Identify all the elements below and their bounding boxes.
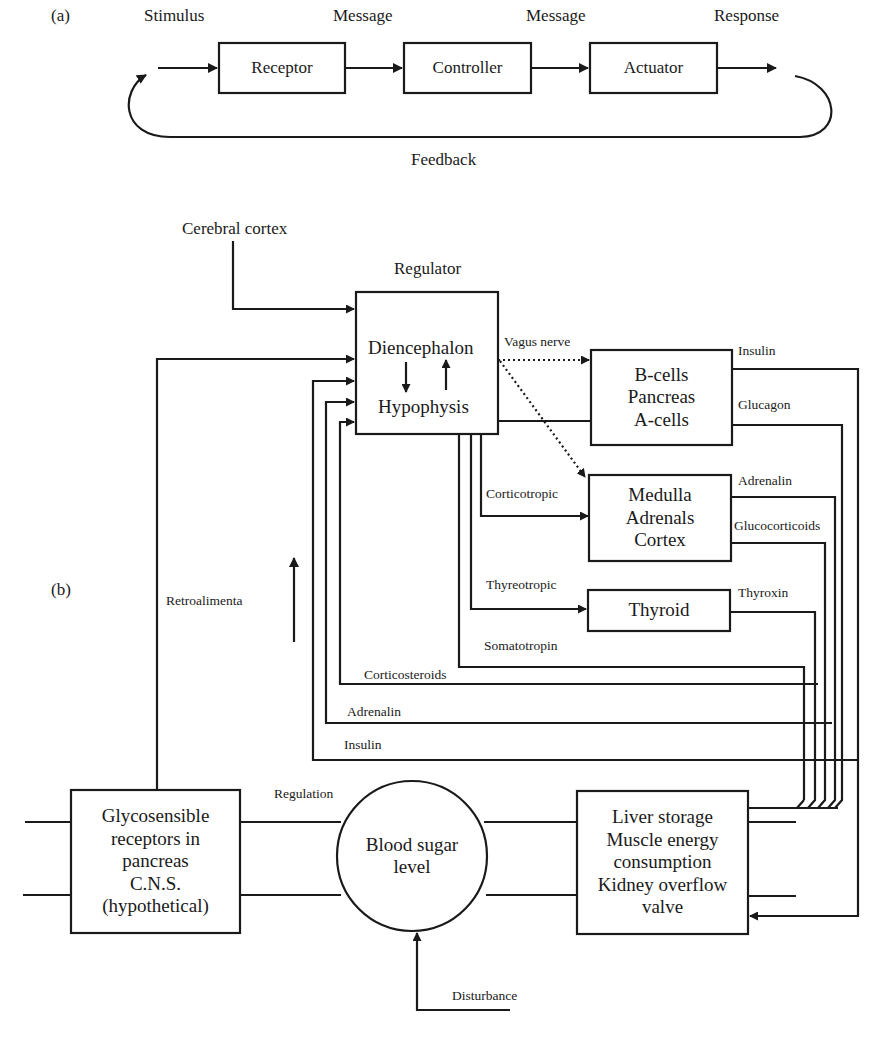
panel-a-label: (a) [51, 6, 70, 26]
feedback-label: Feedback [411, 150, 476, 170]
insulin-output-line [732, 369, 858, 916]
glucocorticoids-output-label: Glucocorticoids [734, 518, 820, 534]
thyroid-text: Thyroid [588, 590, 730, 631]
somatotropin-bus-end [797, 800, 804, 808]
thyroxin-output-line [730, 612, 815, 808]
hypophysis-label: Hypophysis [378, 396, 469, 418]
cerebral-cortex-arrow [233, 241, 354, 309]
disturbance-label: Disturbance [452, 988, 517, 1004]
adrenalin-feedback-label: Adrenalin [347, 704, 401, 720]
vagus-adrenals-arrow [500, 361, 585, 477]
blood-sugar-text: Blood sugar level [337, 781, 487, 931]
glycosensible-text: Glycosensible receptors in pancreas C.N.… [71, 790, 240, 933]
glucocorticoids-output-line [731, 543, 825, 808]
adrenals-text: Medulla Adrenals Cortex [589, 475, 731, 561]
panel-b-label: (b) [51, 580, 71, 600]
cerebral-cortex-label: Cerebral cortex [182, 219, 287, 239]
message-label-1: Message [333, 6, 392, 26]
diencephalon-label: Diencephalon [368, 337, 474, 359]
receptor-text: Receptor [219, 43, 345, 93]
thyroxin-output-label: Thyroxin [738, 585, 788, 601]
stimulus-label: Stimulus [144, 6, 204, 26]
retroalimenta-line [157, 359, 354, 790]
pancreas-text: B-cells Pancreas A-cells [591, 350, 732, 445]
regulator-title: Regulator [394, 259, 461, 279]
thyreotropic-label: Thyreotropic [486, 577, 556, 593]
glucagon-output-label: Glucagon [738, 397, 790, 413]
response-label: Response [714, 6, 779, 26]
effectors-text: Liver storage Muscle energy consumption … [577, 791, 748, 934]
somatotropin-label: Somatotropin [484, 638, 558, 654]
message-label-2: Message [526, 6, 585, 26]
vagus-nerve-label: Vagus nerve [504, 334, 570, 350]
corticosteroids-label: Corticosteroids [364, 667, 447, 683]
retroalimenta-label: Retroalimenta [166, 593, 242, 609]
regulation-label: Regulation [274, 786, 333, 802]
corticotropic-arrow [481, 434, 588, 516]
adrenalin-output-label: Adrenalin [738, 473, 792, 489]
actuator-text: Actuator [590, 43, 717, 93]
insulin-feedback-label: Insulin [344, 737, 382, 753]
insulin-output-label: Insulin [738, 343, 776, 359]
corticotropic-label: Corticotropic [486, 486, 558, 502]
controller-text: Controller [404, 43, 531, 93]
corticosteroids-feedback-line [340, 422, 818, 684]
